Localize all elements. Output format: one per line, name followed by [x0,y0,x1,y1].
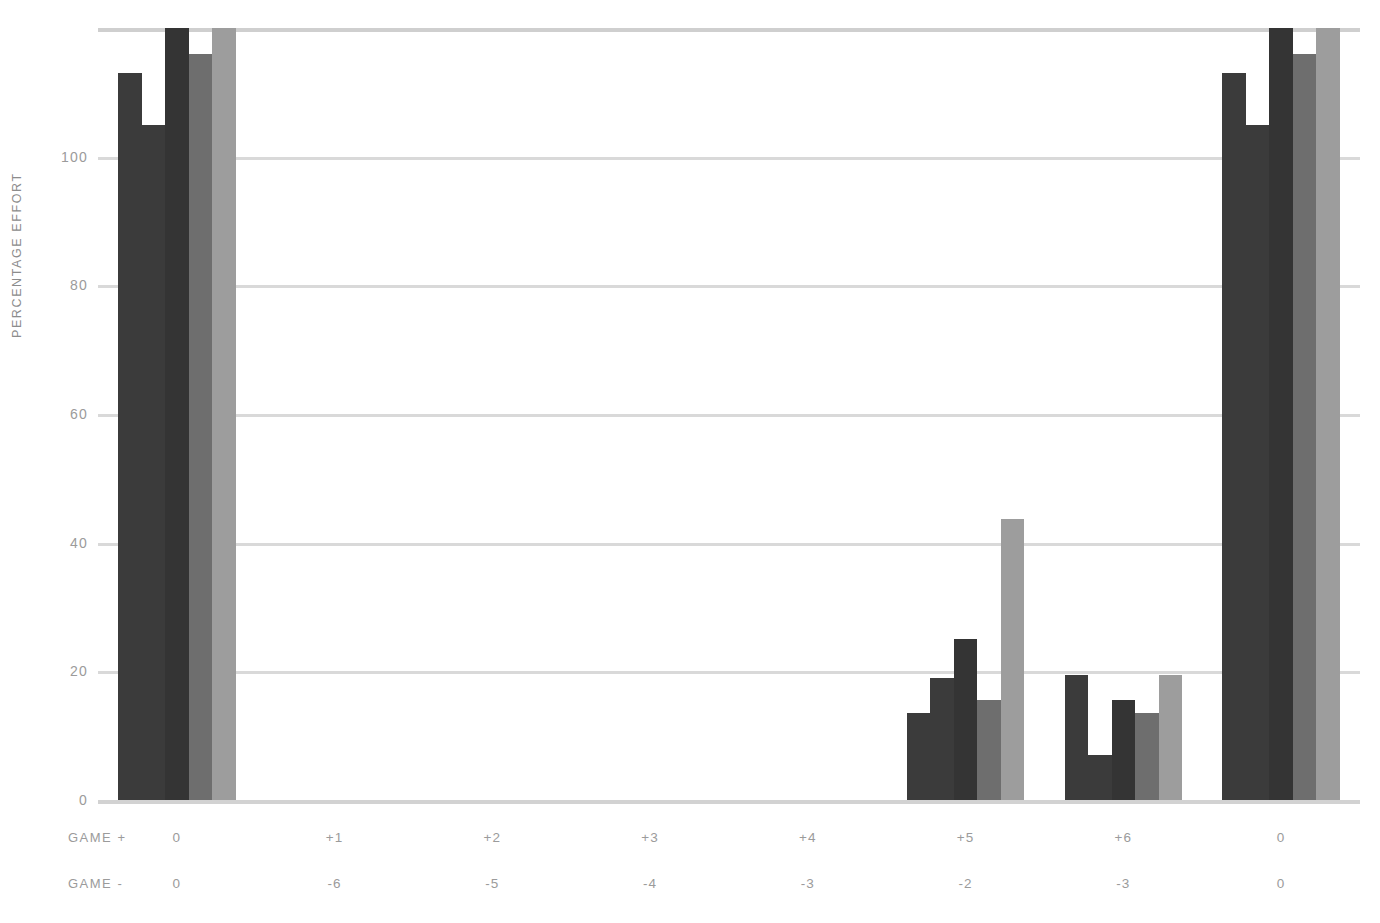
x-tick-label: +2 [483,830,501,845]
y-tick-label: 100 [18,149,88,165]
bar [1316,28,1340,800]
bar [165,28,189,800]
bar [212,28,236,800]
x-tick-label: +6 [1114,830,1132,845]
x-tick-label: -6 [327,876,341,891]
bar [907,713,931,800]
x-tick-label: +4 [799,830,817,845]
bar-group [907,28,1025,800]
x-tick-label: 0 [1277,830,1286,845]
bar [1269,28,1293,800]
bar [1065,675,1089,800]
y-axis-tick-labels: 020406080100 [0,28,88,800]
x-tick-label: +5 [957,830,975,845]
bar-group [591,28,709,800]
axis-baseline [98,800,1360,804]
x-tick-label: -2 [958,876,972,891]
bar-group [118,28,236,800]
bar [930,678,954,800]
bar-group [1065,28,1183,800]
y-tick-label: 80 [18,277,88,293]
bar [1159,675,1183,800]
y-tick-label: 20 [18,663,88,679]
x-tick-label: +1 [326,830,344,845]
bar [1112,700,1136,800]
bar [1293,54,1317,800]
y-tick-label: 40 [18,535,88,551]
y-tick-label: 0 [18,792,88,808]
bar-group [1222,28,1340,800]
bar [1135,713,1159,800]
percentage-effort-bar-chart: PERCENTAGE EFFORT 020406080100 GAME + 0+… [0,0,1380,923]
x-tick-label: -4 [643,876,657,891]
x-tick-label: -5 [485,876,499,891]
x-axis-labels: GAME + 0+1+2+3+4+5+60 GAME - 0-6-5-4-3-2… [98,820,1360,920]
x-tick-label: 0 [1277,876,1286,891]
bar [1001,519,1025,800]
bar [189,54,213,800]
x-axis-row-game-plus: GAME + 0+1+2+3+4+5+60 [98,830,1360,858]
bar-group [434,28,552,800]
x-tick-label: +3 [641,830,659,845]
bar [118,73,142,800]
x-tick-label: -3 [801,876,815,891]
plot-area [98,28,1360,800]
bar [142,125,166,801]
x-tick-label: 0 [173,830,182,845]
bar-group [749,28,867,800]
bar [1222,73,1246,800]
y-tick-label: 60 [18,406,88,422]
x-tick-label: -3 [1116,876,1130,891]
x-tick-label: 0 [173,876,182,891]
bar [977,700,1001,800]
bar [1246,125,1270,801]
bar [1088,755,1112,800]
x-axis-row-game-minus: GAME - 0-6-5-4-3-2-30 [98,876,1360,904]
bar-group [276,28,394,800]
bar [954,639,978,800]
